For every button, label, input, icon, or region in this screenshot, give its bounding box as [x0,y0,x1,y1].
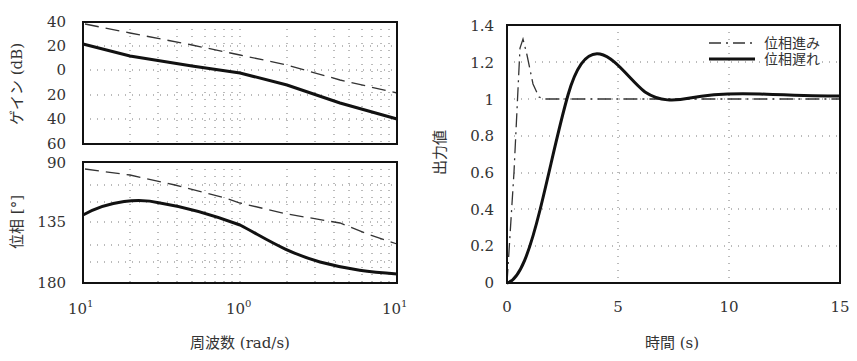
step-xtick: 0 [502,298,512,316]
time-xlabel: 時間 (s) [645,334,699,352]
step-ytick: 1.2 [470,54,494,72]
gain-ytick: 60 [47,135,66,153]
step-ytick: 1 [484,91,494,109]
gain-ytick: 40 [47,13,66,31]
step-ytick: 0.8 [470,127,494,145]
phase-grid [83,162,397,283]
step-plot: 1.4 1.2 1 0.8 0.6 0.4 0.2 0 0 5 10 15 出力… [431,17,850,352]
gain-ylabel: ゲイン (dB) [8,43,26,125]
phase-ytick: 135 [37,213,66,231]
step-ytick: 0 [484,274,494,292]
step-lag-line [507,54,840,283]
step-ytick: 1.4 [470,17,494,35]
phase-ytick: 180 [37,274,66,292]
gain-ytick: 0 [56,61,66,79]
gain-yticks: 40 20 0 20 40 60 [47,13,66,153]
gain-grid [83,22,397,144]
legend: 位相進み 位相遅れ [709,35,820,67]
phase-yticks: 90 135 180 [37,154,66,292]
freq-xlabel: 周波数 (rad/s) [190,334,290,352]
gain-ytick: 20 [47,37,66,55]
freq-xtick-right: 101 [382,298,407,318]
step-ytick: 0.6 [470,164,494,182]
phase-ylabel: 位相 [°] [8,195,26,249]
step-xtick: 15 [830,298,849,316]
phase-plot: 90 135 180 101 100 101 位相 [°] 周波数 (rad/s… [8,154,407,352]
gain-ytick: 40 [47,110,66,128]
phase-lead-line [85,169,397,244]
step-ytick: 0.4 [470,201,494,219]
gain-frame [83,22,397,144]
step-xticks: 0 5 10 15 [502,298,849,316]
legend-lead-label: 位相進み [764,35,820,51]
freq-xtick-left: 101 [68,298,93,318]
step-yticks: 1.4 1.2 1 0.8 0.6 0.4 0.2 0 [470,17,494,292]
gain-plot: 40 20 0 20 40 60 ゲイン (dB) [8,13,397,153]
step-xtick: 10 [719,298,738,316]
gain-ytick: 20 [47,86,66,104]
gain-lead-line [85,24,397,93]
figure: 40 20 0 20 40 60 ゲイン (dB) 90 [0,0,857,361]
step-xtick: 5 [613,298,623,316]
freq-xticks: 101 100 101 [68,298,407,318]
freq-xtick-mid: 100 [226,298,251,318]
step-ylabel: 出力値 [431,130,449,175]
legend-lag-label: 位相遅れ [764,51,820,67]
step-ytick: 0.2 [470,237,494,255]
phase-ytick: 90 [47,154,66,172]
